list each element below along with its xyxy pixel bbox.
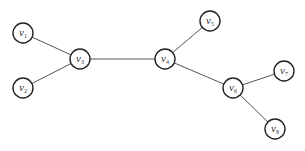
node-v3: v3 [70,49,90,69]
tree-diagram: v1v2v3v4v5v6v7v8 [0,0,305,151]
node-label-subscript: 8 [276,129,279,135]
node-v7: v7 [274,61,294,81]
node-v4: v4 [155,49,175,69]
node-label-subscript: 1 [24,33,27,39]
node-v6: v6 [223,78,243,98]
node-v5: v5 [200,11,220,31]
node-label-subscript: 3 [81,59,84,65]
node-v1: v1 [13,23,33,43]
edge-v4-v6 [165,59,233,88]
nodes-group: v1v2v3v4v5v6v7v8 [13,11,294,139]
node-label-subscript: 4 [166,59,169,65]
node-label-subscript: 7 [285,71,288,77]
node-label-subscript: 5 [211,21,214,27]
node-label-subscript: 6 [234,88,237,94]
node-label-subscript: 2 [24,88,27,94]
node-v2: v2 [13,78,33,98]
edges-group [23,21,284,129]
node-v8: v8 [265,119,285,139]
